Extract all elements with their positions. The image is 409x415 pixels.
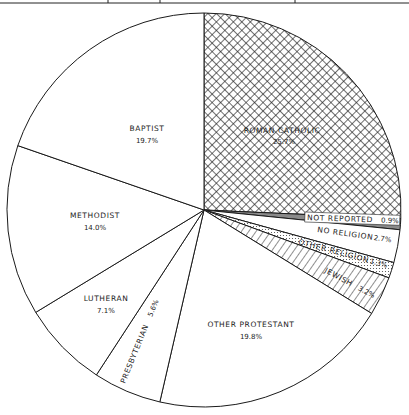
- label-other-protestant: OTHER PROTESTANT: [207, 320, 294, 329]
- pct-roman-catholic: 25.7%: [273, 138, 296, 146]
- pct-other-protestant: 19.8%: [240, 333, 263, 341]
- pie-slice-roman-catholic: [204, 13, 401, 219]
- pct-lutheran: 7.1%: [97, 307, 115, 315]
- pie-slices: [7, 13, 401, 407]
- pct-not-reported: 0.9%: [381, 217, 399, 226]
- religion-pie-chart: ROMAN CATHOLIC 25.7% NOT REPORTED 0.9% N…: [0, 0, 409, 415]
- label-lutheran: LUTHERAN: [84, 294, 129, 303]
- pct-baptist: 19.7%: [136, 137, 159, 145]
- label-baptist: BAPTIST: [129, 124, 164, 133]
- label-methodist: METHODIST: [70, 211, 120, 220]
- table-fragment: [0, 0, 409, 3]
- label-roman-catholic: ROMAN CATHOLIC: [244, 126, 321, 135]
- pct-methodist: 14.0%: [84, 224, 107, 232]
